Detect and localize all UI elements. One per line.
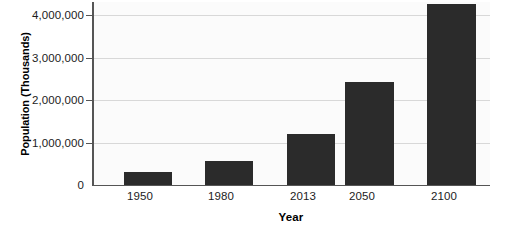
y-tick-label-0: 0 [2, 179, 84, 191]
y-tick-label-4: 4,000,000 [2, 9, 84, 21]
bar-2050 [345, 82, 394, 185]
bar-2100 [427, 4, 476, 185]
y-axis-title: Population (Thousands) [19, 19, 31, 169]
y-tick-label-1: 1,000,000 [2, 137, 84, 149]
bar-1980 [205, 161, 253, 185]
x-tick-label-2050: 2050 [322, 190, 402, 202]
x-tick-label-1950: 1950 [100, 190, 180, 202]
y-tick-label-3: 3,000,000 [2, 52, 84, 64]
y-axis-tick-labels: 0 1,000,000 2,000,000 3,000,000 4,000,00… [0, 0, 84, 234]
y-axis-line [92, 2, 94, 186]
y-tick-label-2: 2,000,000 [2, 94, 84, 106]
plot-area [92, 2, 490, 185]
x-axis-title: Year [92, 211, 490, 223]
x-tick-label-2100: 2100 [404, 190, 484, 202]
x-tick-label-1980: 1980 [181, 190, 261, 202]
bar-1950 [124, 172, 172, 185]
x-axis-line [92, 185, 490, 187]
population-bar-chart: 0 1,000,000 2,000,000 3,000,000 4,000,00… [0, 0, 510, 234]
bar-2013 [287, 134, 335, 186]
